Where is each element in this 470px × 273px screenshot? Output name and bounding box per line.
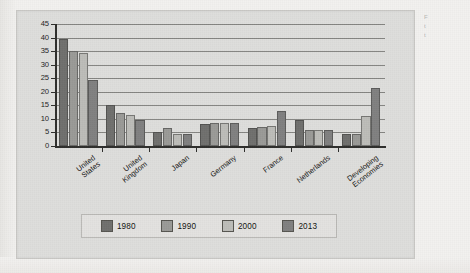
margin-note-line-1: F	[424, 12, 470, 21]
y-axis-tick-label: 20	[17, 88, 49, 96]
bar	[135, 120, 144, 146]
legend-item[interactable]: 2013	[282, 220, 317, 232]
x-axis-line	[55, 146, 386, 148]
bar	[183, 134, 192, 146]
bar	[305, 130, 314, 146]
y-axis-tick-label: 35	[17, 47, 49, 55]
x-axis-tick	[102, 148, 103, 152]
margin-note-line-3: t	[424, 30, 470, 39]
margin-note-line-2: t	[424, 21, 470, 30]
bar	[106, 105, 115, 146]
bar	[361, 116, 370, 146]
category-label-line: France	[262, 154, 285, 175]
legend-swatch-icon	[222, 220, 234, 232]
category-label: France	[262, 154, 285, 175]
legend-label: 1980	[117, 222, 136, 231]
legend-item[interactable]: 1980	[101, 220, 136, 232]
bar	[295, 120, 304, 146]
legend-swatch-icon	[161, 220, 173, 232]
x-axis-tick	[149, 148, 150, 152]
bar	[248, 128, 257, 146]
bar	[314, 130, 323, 146]
y-axis-tick-label: 15	[17, 101, 49, 109]
y-axis-tick-label: 40	[17, 34, 49, 42]
bar	[210, 123, 219, 146]
legend-label: 1990	[177, 222, 196, 231]
y-axis-tick-label: 0	[17, 142, 49, 150]
y-axis-tick-label: 30	[17, 61, 49, 69]
x-axis-tick	[291, 148, 292, 152]
category-label-line: Japan	[170, 154, 191, 173]
bar	[342, 134, 351, 146]
y-axis-tick-label: 5	[17, 129, 49, 137]
legend-swatch-icon	[282, 220, 294, 232]
bar	[69, 51, 78, 146]
y-axis-tick-label: 10	[17, 115, 49, 123]
x-axis-tick	[196, 148, 197, 152]
bar	[153, 132, 162, 146]
category-label: DevelopingEconomies	[345, 154, 384, 190]
page-edge-bottom-shading	[0, 257, 470, 273]
bar	[88, 80, 97, 146]
bar	[257, 127, 266, 146]
legend-label: 2013	[298, 222, 317, 231]
x-axis-tick	[338, 148, 339, 152]
legend-swatch-icon	[101, 220, 113, 232]
category-label-line: Netherlands	[296, 154, 333, 185]
y-axis-tick	[51, 146, 56, 147]
category-label: UnitedKingdom	[116, 154, 149, 185]
bar	[163, 128, 172, 146]
bar	[277, 111, 286, 146]
bar	[59, 39, 68, 146]
category-label: Netherlands	[296, 154, 333, 185]
legend-item[interactable]: 1990	[161, 220, 196, 232]
bar	[371, 88, 380, 146]
bar-chart-figure: 051015202530354045 UnitedStatesUnitedKin…	[16, 10, 415, 259]
bar	[116, 113, 125, 146]
category-label: Japan	[170, 154, 191, 173]
margin-note: F t t	[424, 12, 470, 39]
plot-area	[55, 24, 385, 146]
bar	[324, 130, 333, 146]
bar	[173, 134, 182, 146]
bar	[220, 123, 229, 146]
bar	[267, 126, 276, 146]
bar	[200, 124, 209, 146]
bar	[126, 115, 135, 146]
bar	[352, 134, 361, 146]
category-label: Germany	[209, 154, 238, 179]
bar	[79, 53, 88, 146]
category-label-line: Germany	[209, 154, 238, 179]
bar	[230, 123, 239, 146]
y-axis-tick-label: 25	[17, 74, 49, 82]
chart-legend: 1980199020002013	[81, 214, 337, 238]
legend-label: 2000	[238, 222, 257, 231]
category-label: UnitedStates	[75, 154, 102, 180]
x-axis-tick	[244, 148, 245, 152]
legend-item[interactable]: 2000	[222, 220, 257, 232]
page-edge-left-shading	[0, 0, 16, 273]
chart-page: 051015202530354045 UnitedStatesUnitedKin…	[0, 0, 470, 273]
y-axis-tick-label: 45	[17, 20, 49, 28]
